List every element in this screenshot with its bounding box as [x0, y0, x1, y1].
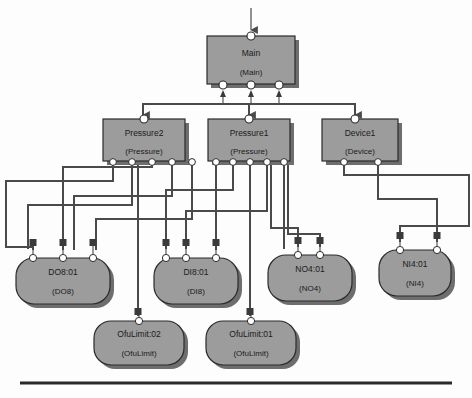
port-ofulimit02-top[interactable] — [135, 317, 142, 324]
square-port-do8-3[interactable] — [90, 239, 97, 246]
node-pressure2[interactable]: Pressure2 (Pressure) — [103, 115, 195, 165]
node-pressure1-name: Pressure1 — [230, 128, 269, 138]
node-body — [268, 255, 352, 301]
node-main[interactable]: Main (Main) — [207, 32, 299, 104]
node-body — [206, 321, 296, 365]
square-port-do8-2[interactable] — [60, 239, 67, 246]
port-ni4-top-2[interactable] — [433, 246, 440, 253]
port-pressure2-bottom-4[interactable] — [169, 159, 176, 166]
node-ofulimit02-type: (OfuLimit) — [121, 349, 156, 358]
node-ni4-name: NI4:01 — [402, 259, 427, 269]
node-di8-type: (DI8) — [187, 287, 205, 296]
square-port-di8-1[interactable] — [163, 239, 170, 246]
port-pressure2-bottom-5[interactable] — [189, 159, 196, 166]
node-ni4[interactable]: NI4:01 (NI4) — [379, 232, 455, 300]
node-do8-type: (DO8) — [52, 287, 74, 296]
node-no4-type: (NO4) — [299, 284, 321, 293]
square-port-di8-3[interactable] — [213, 239, 220, 246]
arrowhead-main-1 — [220, 90, 226, 97]
port-main-top[interactable] — [247, 32, 255, 40]
square-port-do8-1[interactable] — [30, 239, 37, 246]
arrowhead-main-2 — [248, 90, 254, 97]
port-no4-top-2[interactable] — [316, 251, 323, 258]
node-do8-name: DO8:01 — [48, 267, 78, 277]
node-ofulimit01-type: (OfuLimit) — [233, 349, 268, 358]
port-ni4-top-1[interactable] — [396, 246, 403, 253]
port-main-bottom-2[interactable] — [247, 81, 255, 89]
node-no4[interactable]: NO4:01 (NO4) — [268, 237, 356, 305]
port-pressure1-bottom-2[interactable] — [230, 159, 237, 166]
port-pressure2-bottom-1[interactable] — [110, 159, 117, 166]
port-main-bottom-3[interactable] — [275, 81, 283, 89]
port-do8-top-2[interactable] — [59, 254, 66, 261]
port-pressure2-bottom-3[interactable] — [149, 159, 156, 166]
port-ofulimit01-top[interactable] — [247, 317, 254, 324]
node-ofulimit02[interactable]: OfuLimit:02 (OfuLimit) — [94, 308, 188, 369]
port-pressure1-top[interactable] — [245, 115, 253, 123]
port-device1-bottom-2[interactable] — [375, 159, 382, 166]
port-main-bottom-1[interactable] — [219, 81, 227, 89]
port-di8-top-1[interactable] — [162, 254, 169, 261]
square-port-ofulimit01[interactable] — [247, 308, 254, 315]
port-no4-top-1[interactable] — [294, 251, 301, 258]
node-body — [16, 258, 110, 304]
port-di8-top-2[interactable] — [182, 254, 189, 261]
square-port-no4-2[interactable] — [317, 237, 324, 244]
node-pressure2-type: (Pressure) — [125, 147, 163, 156]
node-do8[interactable]: DO8:01 (DO8) — [16, 239, 114, 308]
node-device1-type: (Device) — [345, 147, 375, 156]
port-pressure1-bottom-1[interactable] — [213, 159, 220, 166]
node-main-name: Main — [242, 48, 261, 58]
node-body — [154, 258, 238, 304]
port-pressure1-bottom-3[interactable] — [247, 159, 254, 166]
diagram-canvas: Main (Main) Pressure2 (Pressure) — [0, 0, 472, 398]
node-pressure1[interactable]: Pressure1 (Pressure) — [208, 115, 294, 165]
port-pressure2-bottom-2[interactable] — [129, 159, 136, 166]
node-di8[interactable]: DI8:01 (DI8) — [154, 239, 242, 308]
child-entry-arrows — [143, 106, 355, 115]
node-device1[interactable]: Device1 (Device) — [322, 115, 402, 165]
square-port-ni4-1[interactable] — [397, 232, 404, 239]
square-port-ofulimit02[interactable] — [135, 308, 142, 315]
node-ni4-type: (NI4) — [406, 279, 424, 288]
port-di8-top-3[interactable] — [212, 254, 219, 261]
node-di8-name: DI8:01 — [183, 267, 208, 277]
node-pressure2-name: Pressure2 — [125, 128, 164, 138]
diagram-svg: Main (Main) Pressure2 (Pressure) — [0, 0, 472, 398]
port-pressure2-top[interactable] — [140, 115, 148, 123]
node-ofulimit01-name: OfuLimit:01 — [229, 329, 273, 339]
port-device1-bottom-1[interactable] — [341, 159, 348, 166]
node-no4-name: NO4:01 — [295, 264, 325, 274]
port-pressure1-bottom-4[interactable] — [264, 159, 271, 166]
node-main-type: (Main) — [240, 68, 263, 77]
square-port-di8-2[interactable] — [183, 239, 190, 246]
node-pressure1-type: (Pressure) — [230, 147, 268, 156]
port-pressure1-bottom-5[interactable] — [281, 159, 288, 166]
node-body — [379, 250, 451, 296]
port-device1-top[interactable] — [351, 115, 359, 123]
port-do8-top-3[interactable] — [89, 254, 96, 261]
square-port-no4-1[interactable] — [295, 237, 302, 244]
arrowhead-main-3 — [276, 90, 282, 97]
port-do8-top-1[interactable] — [29, 254, 36, 261]
node-body — [94, 321, 184, 365]
node-ofulimit01[interactable]: OfuLimit:01 (OfuLimit) — [206, 308, 300, 369]
node-ofulimit02-name: OfuLimit:02 — [117, 329, 161, 339]
square-port-ni4-2[interactable] — [434, 232, 441, 239]
node-device1-name: Device1 — [345, 128, 376, 138]
